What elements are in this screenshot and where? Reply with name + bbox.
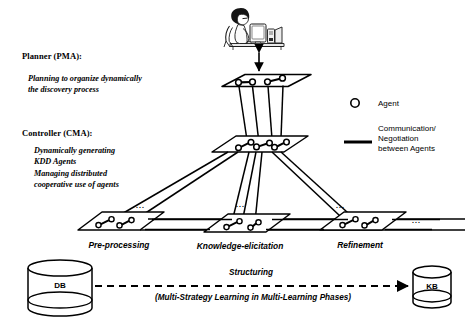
structuring-subtitle: (Multi-Strategy Learning in Multi-Learni… <box>128 293 378 302</box>
controller-heading: Controller (CMA): <box>22 128 93 138</box>
kb-label: KB <box>418 282 446 291</box>
controller-plane <box>212 136 308 152</box>
legend-communication-line-1: Communication/ <box>378 124 436 134</box>
ellipsis-rail-right: ... <box>412 217 421 224</box>
legend-agent-icon <box>351 99 359 107</box>
planner-heading: Planner (PMA): <box>22 51 82 61</box>
caption-refinement: Refinement <box>312 240 408 250</box>
ellipsis-refinement: ... <box>336 202 345 209</box>
structuring-title: Structuring <box>186 268 316 277</box>
planner-body-line-1: Planning to organize dynamically <box>28 74 142 85</box>
planner-body-line-2: the discovery process <box>28 85 99 96</box>
ellipsis-pre-processing: ... <box>136 202 145 209</box>
legend-communication-line-2: Negotiation <box>378 134 418 144</box>
planner-plane <box>222 75 311 87</box>
legend-communication-line-3: between Agents <box>378 144 435 154</box>
person-at-computer-icon <box>224 8 284 50</box>
task-plane-rails <box>145 220 440 230</box>
controller-body-line-1: Dynamically generating <box>34 146 115 157</box>
db-label: DB <box>44 281 76 290</box>
controller-body-line-2: KDD Agents <box>34 157 76 168</box>
controller-body-line-4: cooperative use of agents <box>34 180 119 191</box>
planner-controller-connectors <box>239 86 283 141</box>
caption-knowledge-elicitation: Knowledge-elicitation <box>178 241 302 251</box>
figure-canvas: Planner (PMA): Planning to organize dyna… <box>0 0 465 321</box>
refinement-plane <box>0 212 406 230</box>
caption-pre-processing: Pre-processing <box>64 240 174 250</box>
ellipsis-knowledge-elicitation: ... <box>236 201 245 208</box>
legend-agent-label: Agent <box>378 99 399 109</box>
controller-body-line-3: Managing distributed <box>34 169 107 180</box>
